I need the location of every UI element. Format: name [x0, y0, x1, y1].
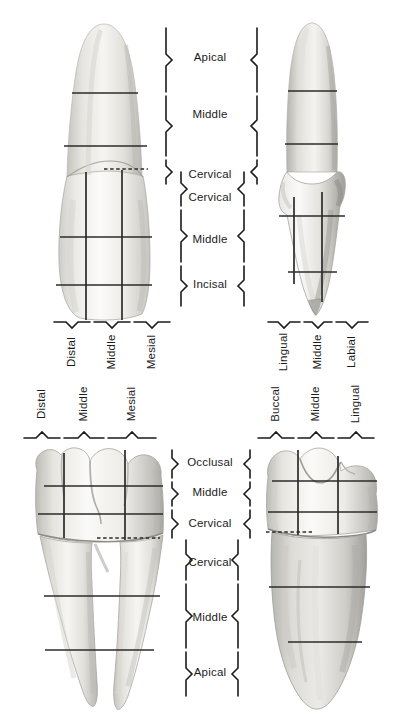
label-lower-root-middle: Middle: [192, 612, 227, 624]
label-upper-crown-cervical: Cervical: [188, 192, 231, 204]
label-upper-left-mesial: Mesial: [146, 335, 158, 369]
label-lower-apical: Apical: [194, 667, 227, 679]
figure-canvas: Apical Middle Cervical Cervical Middle I…: [0, 0, 400, 720]
label-lower-crown-middle: Middle: [192, 487, 227, 499]
tooth-lower-right-illustration: [267, 448, 378, 709]
label-upper-apical: Apical: [194, 52, 227, 64]
label-lower-right-buccal: Buccal: [270, 386, 282, 422]
label-lower-crown-cervical: Cervical: [188, 518, 231, 530]
label-lower-root-cervical: Cervical: [188, 557, 231, 569]
label-upper-root-cervical: Cervical: [188, 169, 231, 181]
tooth-lower-left-illustration: [36, 448, 164, 710]
label-lower-left-middle: Middle: [78, 386, 90, 421]
tooth-upper-left-illustration: [59, 24, 150, 320]
label-lower-right-middle: Middle: [310, 386, 322, 421]
label-upper-crown-middle: Middle: [192, 234, 227, 246]
label-upper-right-middle: Middle: [312, 334, 324, 369]
label-lower-left-mesial: Mesial: [126, 387, 138, 421]
label-upper-root-middle: Middle: [192, 109, 227, 121]
label-upper-left-distal: Distal: [66, 337, 78, 367]
label-lower-left-distal: Distal: [36, 389, 48, 419]
label-upper-incisal: Incisal: [193, 279, 227, 291]
label-upper-right-lingual: Lingual: [278, 333, 290, 372]
label-lower-occlusal: Occlusal: [187, 457, 233, 469]
label-upper-right-labial: Labial: [346, 336, 358, 368]
label-upper-left-middle: Middle: [106, 334, 118, 369]
label-lower-right-lingual: Lingual: [350, 385, 362, 424]
